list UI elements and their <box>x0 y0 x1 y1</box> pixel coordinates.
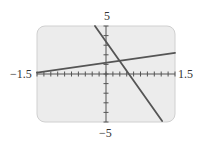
x-max-label: 1.5 <box>178 68 193 80</box>
y-max-label: 5 <box>104 10 110 22</box>
y-min-label: −5 <box>99 127 112 139</box>
x-min-label: −1.5 <box>10 68 32 80</box>
